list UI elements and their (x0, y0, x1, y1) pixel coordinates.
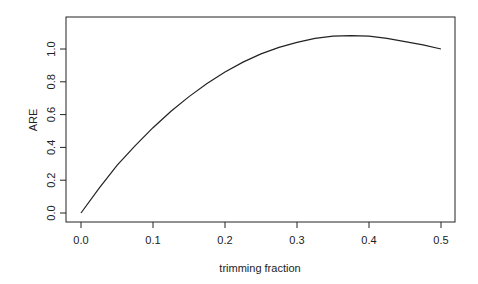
plot-frame (66, 17, 455, 222)
x-axis: 0.00.10.20.30.40.5 (73, 222, 448, 246)
y-tick-label: 1.0 (45, 41, 57, 56)
x-tick-label: 0.1 (145, 234, 160, 246)
x-tick-label: 0.3 (289, 234, 304, 246)
x-tick-label: 0.0 (73, 234, 88, 246)
y-tick-label: 0.8 (45, 74, 57, 89)
y-axis-label: ARE (27, 109, 39, 132)
x-axis-label: trimming fraction (219, 262, 300, 274)
y-axis: 0.00.20.40.60.81.0 (45, 41, 66, 220)
y-tick-label: 0.2 (45, 173, 57, 188)
y-tick-label: 0.0 (45, 205, 57, 220)
x-tick-label: 0.2 (217, 234, 232, 246)
are-curve (81, 36, 441, 213)
y-tick-label: 0.6 (45, 107, 57, 122)
y-tick-label: 0.4 (45, 140, 57, 155)
x-tick-label: 0.4 (361, 234, 376, 246)
x-tick-label: 0.5 (433, 234, 448, 246)
are-line-chart: 0.00.10.20.30.40.5 0.00.20.40.60.81.0 tr… (0, 0, 478, 284)
